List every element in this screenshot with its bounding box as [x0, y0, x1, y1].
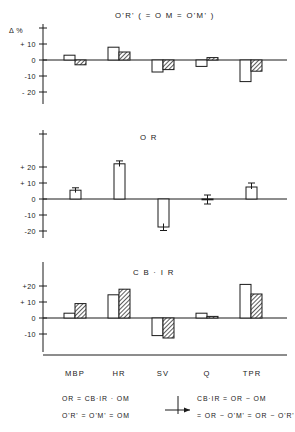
bar-open-cbir-mbp — [64, 313, 75, 318]
panel-cbir-ytick-0: 0 — [32, 314, 36, 323]
figure-container: O'R' ( = O M = O'M' ) Δ % + 10 0 -10 - 2… — [0, 0, 295, 432]
panel-cbir-ytick-p10: + 10 — [20, 298, 36, 307]
bar-open-or-sv — [158, 199, 169, 227]
bar-hatched-cbir-mbp — [75, 304, 86, 318]
panel-or-ytick-p20: + 20 — [20, 163, 36, 172]
bar-group-cbir-tpr — [240, 284, 262, 318]
bar-hatched-hr — [119, 52, 130, 60]
bar-group-q — [196, 58, 218, 67]
bar-group-hr — [108, 47, 130, 60]
bar-hatched-cbir-q — [207, 316, 218, 318]
bar-open-mbp — [64, 55, 75, 60]
bar-group-cbir-sv — [152, 318, 174, 338]
bar-group-cbir-hr — [108, 289, 130, 318]
bar-open-tpr — [240, 60, 251, 82]
bar-hatched-sv — [163, 60, 174, 70]
equation-left-1: OR = CB·IR · OM — [62, 395, 130, 402]
panel-cbir-title: C B · I R — [133, 268, 175, 277]
category-axis-labels: MBP HR SV Q TPR — [65, 369, 261, 378]
bar-open-hr — [108, 47, 119, 60]
category-label-mbp: MBP — [65, 369, 85, 378]
bar-group-or-q — [202, 195, 213, 204]
panel-or-ytick-0: 0 — [32, 195, 36, 204]
panel-or: O R + 20 + 10 0 -10 -20 — [20, 130, 287, 238]
bar-group-sv — [152, 60, 174, 72]
panel-cbir-ytick-p20: +20 — [23, 282, 36, 291]
bar-group-or-tpr — [246, 183, 257, 199]
bar-open-cbir-q — [196, 313, 207, 318]
bar-group-cbir-mbp — [64, 304, 86, 318]
bar-open-cbir-sv — [152, 318, 163, 336]
panel-orprime-title: O'R' ( = O M = O'M' ) — [115, 11, 215, 20]
panel-orprime-ytick-m10: -10 — [24, 72, 36, 81]
bar-group-or-hr — [114, 161, 125, 199]
bar-hatched-cbir-sv — [163, 318, 174, 338]
bar-hatched-tpr — [251, 60, 262, 71]
bar-group-or-mbp — [70, 188, 81, 199]
bar-open-cbir-tpr — [240, 284, 251, 318]
bar-group-or-sv — [158, 199, 169, 231]
bar-hatched-q — [207, 58, 218, 60]
panel-orprime-ytick-m20: - 20 — [22, 88, 36, 97]
bar-open-or-hr — [114, 164, 125, 199]
bar-open-cbir-hr — [108, 295, 119, 318]
panel-or-ytick-m20: -20 — [24, 227, 36, 236]
equation-right-2: = OR − O'M' = OR − O'R' — [197, 412, 295, 419]
equation-left-2: O'R' = O'M' = OM — [62, 412, 130, 419]
panel-cbir-ytick-m10: -10 — [24, 330, 36, 339]
panel-orprime-ytick-p10: + 10 — [20, 40, 36, 49]
panel-orprime: O'R' ( = O M = O'M' ) Δ % + 10 0 -10 - 2… — [9, 11, 287, 104]
bar-hatched-mbp — [75, 60, 86, 65]
y-axis-label: Δ % — [9, 26, 23, 35]
chart-svg: O'R' ( = O M = O'M' ) Δ % + 10 0 -10 - 2… — [0, 0, 295, 432]
category-label-q: Q — [203, 369, 210, 378]
panel-or-title: O R — [140, 133, 158, 142]
bar-open-sv — [152, 60, 163, 72]
category-label-hr: HR — [112, 369, 125, 378]
bar-hatched-cbir-tpr — [251, 294, 262, 318]
panel-orprime-ytick-0: 0 — [32, 56, 36, 65]
bar-open-q — [196, 60, 207, 66]
equation-block: OR = CB·IR · OM O'R' = O'M' = OM CB·IR =… — [62, 395, 295, 419]
panel-or-ytick-m10: -10 — [24, 211, 36, 220]
bar-group-cbir-q — [196, 313, 218, 318]
bar-group-mbp — [64, 55, 86, 65]
panel-cbir: C B · I R +20 + 10 0 -10 — [20, 262, 287, 355]
category-label-sv: SV — [157, 369, 169, 378]
equation-right-1: CB·IR = OR − OM — [197, 395, 266, 402]
panel-or-ytick-p10: + 10 — [20, 179, 36, 188]
bar-hatched-cbir-hr — [119, 289, 130, 318]
bar-group-tpr — [240, 60, 262, 82]
category-label-tpr: TPR — [243, 369, 262, 378]
